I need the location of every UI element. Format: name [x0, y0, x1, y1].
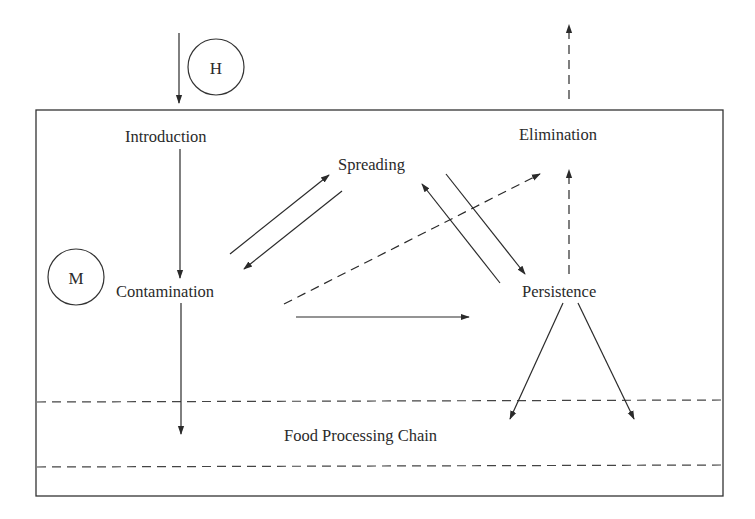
- arrow-spreading-to-persistence: [446, 174, 525, 274]
- food-chain-top-dashed-line: [37, 400, 722, 402]
- dashed-arrow-contamination-to-elimination: [284, 174, 540, 304]
- h-marker-label: H: [210, 60, 222, 77]
- diagram-canvas: Introduction Contamination Spreading Per…: [0, 0, 755, 519]
- arrow-persistence-to-food-chain-left: [510, 303, 563, 419]
- node-contamination: Contamination: [116, 284, 214, 301]
- node-elimination: Elimination: [519, 127, 597, 144]
- node-spreading: Spreading: [338, 157, 405, 174]
- m-marker-label: M: [68, 270, 83, 287]
- arrow-persistence-to-spreading: [422, 184, 500, 283]
- node-persistence: Persistence: [522, 284, 596, 301]
- food-chain-bottom-dashed-line: [37, 465, 722, 467]
- arrow-contamination-to-spreading: [230, 175, 329, 254]
- arrow-spreading-to-contamination: [244, 191, 342, 269]
- node-food-processing-chain: Food Processing Chain: [284, 428, 437, 445]
- arrow-persistence-to-food-chain-right: [578, 303, 634, 419]
- node-introduction: Introduction: [125, 129, 207, 146]
